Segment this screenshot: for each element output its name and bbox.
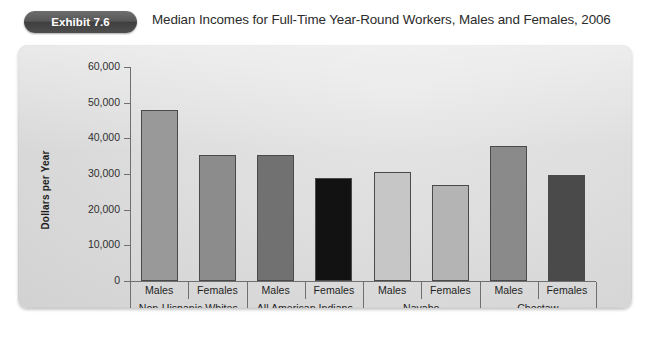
- x-axis-label: Females: [305, 282, 363, 299]
- x-axis-label: Males: [130, 282, 188, 299]
- y-axis-tick: [124, 210, 131, 211]
- bar-non-hispanic-whites-females: [199, 155, 236, 281]
- x-axis-group-label: Navaho: [363, 299, 480, 308]
- x-axis-group-separator: [480, 282, 481, 308]
- x-axis-group-label: Choctaw: [480, 299, 597, 308]
- x-axis-label: Females: [538, 282, 596, 299]
- x-axis-separator: [305, 282, 306, 299]
- bar-all-american-indians-males: [257, 155, 294, 281]
- y-axis-tick-label: 40,000: [58, 131, 120, 143]
- bar-non-hispanic-whites-males: [141, 110, 178, 281]
- y-axis-tick: [124, 138, 131, 139]
- x-axis-label: Females: [188, 282, 246, 299]
- x-axis-label: Males: [247, 282, 305, 299]
- y-axis-tick-label: 20,000: [58, 203, 120, 215]
- chart-title: Median Incomes for Full-Time Year-Round …: [152, 12, 611, 27]
- y-axis-tick-label: 50,000: [58, 96, 120, 108]
- x-axis-label: Females: [421, 282, 479, 299]
- y-axis-tick: [124, 103, 131, 104]
- x-axis-separator: [538, 282, 539, 299]
- x-axis-group-label: All American Indians: [247, 299, 364, 308]
- chart-panel: Dollars per Year 010,00020,00030,00040,0…: [18, 45, 632, 308]
- x-axis-label: Males: [480, 282, 538, 299]
- y-axis-title: Dollars per Year: [40, 135, 51, 245]
- y-axis-tick-label: 10,000: [58, 238, 120, 250]
- exhibit-number-label: Exhibit 7.6: [51, 16, 110, 28]
- y-axis-tick: [124, 67, 131, 68]
- x-axis-group-separator: [247, 282, 248, 308]
- x-axis-separator: [188, 282, 189, 299]
- bar-navaho-males: [374, 172, 411, 281]
- bar-navaho-females: [432, 185, 469, 281]
- x-axis-group-separator: [363, 282, 364, 308]
- y-axis-tick-label: 30,000: [58, 167, 120, 179]
- x-axis-separator: [421, 282, 422, 299]
- x-axis-group-separator: [130, 282, 131, 308]
- figure-header: Exhibit 7.6 Median Incomes for Full-Time…: [0, 0, 650, 46]
- exhibit-number-badge: Exhibit 7.6: [24, 11, 137, 33]
- bar-choctaw-males: [490, 146, 527, 281]
- bar-choctaw-females: [548, 175, 585, 281]
- bar-all-american-indians-females: [315, 178, 352, 281]
- y-axis-tick: [124, 245, 131, 246]
- exhibit-figure: Exhibit 7.6 Median Incomes for Full-Time…: [0, 0, 650, 352]
- plot-area: Dollars per Year 010,00020,00030,00040,0…: [18, 45, 632, 308]
- x-axis-label: Males: [363, 282, 421, 299]
- y-axis-tick: [124, 174, 131, 175]
- x-axis-group-label: Non-Hispanic Whites: [130, 299, 247, 308]
- x-axis-group-separator: [596, 282, 597, 308]
- y-axis-tick-label: 0: [58, 274, 120, 286]
- y-axis-tick-label: 60,000: [58, 60, 120, 72]
